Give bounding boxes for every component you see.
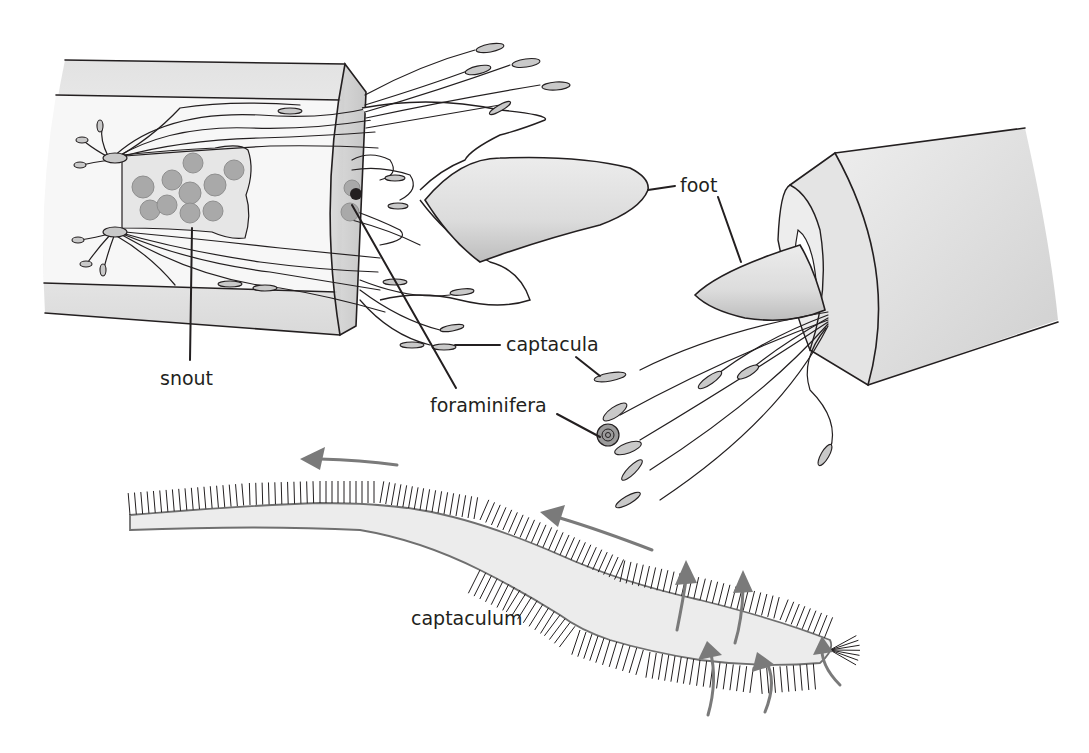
- right-captacula: [594, 312, 835, 510]
- flow-arrow-top: [300, 447, 397, 470]
- cilium: [800, 665, 802, 691]
- cilium: [749, 591, 754, 612]
- cilium: [262, 483, 263, 505]
- cilium: [824, 617, 832, 637]
- cilium: [268, 482, 269, 504]
- cilium: [706, 580, 711, 601]
- cilium: [791, 604, 799, 624]
- cilium: [596, 638, 604, 663]
- cilium: [578, 632, 586, 657]
- cilium: [725, 585, 730, 606]
- cilium: [497, 507, 506, 527]
- foraminifera-leader-right: [557, 414, 600, 437]
- right-shell: [695, 128, 1058, 385]
- cilium: [456, 494, 460, 516]
- cilium: [636, 650, 643, 675]
- cilium: [217, 486, 219, 508]
- cilium: [572, 630, 580, 655]
- cilium: [444, 492, 448, 514]
- label-snout: snout: [160, 367, 213, 389]
- cilium: [509, 512, 518, 532]
- cilium: [386, 482, 390, 504]
- cilium: [128, 493, 130, 515]
- cilium: [549, 530, 558, 550]
- cilium: [819, 615, 827, 635]
- cilium: [523, 601, 537, 623]
- cilium: [491, 505, 500, 525]
- cilium: [787, 666, 789, 692]
- cilium: [584, 634, 592, 659]
- cilium: [773, 667, 775, 693]
- cilium: [491, 581, 503, 604]
- cilium: [669, 572, 674, 593]
- cilium: [426, 489, 430, 511]
- foraminifera-captured: [597, 424, 619, 446]
- cilium: [645, 566, 650, 587]
- cilium: [623, 646, 630, 671]
- cilium: [397, 484, 401, 506]
- cilium: [780, 666, 782, 692]
- left-shell: [43, 60, 385, 335]
- cilium: [486, 579, 498, 602]
- cilium: [275, 482, 276, 504]
- cilium: [409, 486, 413, 508]
- cilium: [134, 493, 136, 515]
- cilium: [300, 482, 301, 504]
- cilium: [198, 487, 200, 509]
- cilium: [438, 491, 442, 513]
- cilium: [236, 484, 238, 506]
- cilium: [657, 569, 662, 590]
- cilium: [658, 654, 662, 680]
- label-captaculum: captaculum: [411, 607, 523, 629]
- cilium: [768, 596, 773, 617]
- cilium: [535, 608, 549, 630]
- foot-leader-right: [718, 197, 741, 262]
- cilium: [774, 597, 779, 618]
- cilium: [313, 481, 314, 503]
- left-foot-assembly: [341, 42, 648, 350]
- cilium: [420, 488, 424, 510]
- cilium: [432, 490, 436, 512]
- cilium: [723, 664, 726, 690]
- cilium: [737, 665, 740, 691]
- cilium: [480, 500, 489, 520]
- cilium: [646, 652, 650, 678]
- foot-leader-left: [648, 186, 675, 190]
- cilium: [541, 611, 555, 633]
- cilium: [743, 666, 746, 692]
- cilium: [514, 515, 523, 535]
- cilium: [717, 663, 720, 689]
- cilium: [468, 496, 472, 518]
- cilium: [697, 660, 700, 686]
- cilium: [663, 570, 668, 591]
- cilium: [629, 648, 636, 673]
- cilium: [531, 522, 540, 542]
- cilium: [166, 490, 168, 512]
- cilium: [223, 485, 225, 507]
- cilium: [147, 491, 149, 513]
- cilium: [638, 565, 643, 586]
- cilium: [780, 600, 788, 620]
- cilium: [807, 664, 809, 690]
- cilium: [760, 668, 762, 694]
- cilium: [786, 602, 794, 622]
- cilium: [380, 481, 384, 503]
- cilium: [185, 488, 187, 510]
- cilium: [520, 517, 529, 537]
- cilium: [651, 567, 656, 588]
- cilium: [813, 613, 821, 633]
- cilium: [554, 623, 570, 644]
- foot-right: [695, 245, 825, 320]
- cilium: [179, 489, 181, 511]
- cilium: [307, 481, 308, 503]
- cilium: [616, 644, 623, 669]
- cilium: [813, 664, 815, 690]
- cilium: [242, 484, 244, 506]
- cilium: [665, 655, 669, 681]
- cilium: [294, 482, 295, 504]
- cilium: [544, 615, 560, 636]
- cilium: [450, 493, 454, 515]
- cilium: [808, 611, 816, 631]
- cilium: [391, 483, 395, 505]
- cilium: [559, 626, 575, 647]
